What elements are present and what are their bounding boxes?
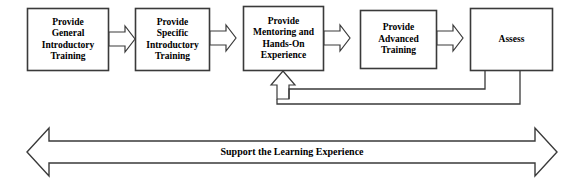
node-label-line: Training <box>155 51 190 63</box>
node-label-line: Provide <box>268 16 300 28</box>
node-label-line: Experience <box>261 50 306 62</box>
process-flow-diagram: Provide General Introductory Training Pr… <box>0 0 584 191</box>
node-label-line: Training <box>381 45 416 57</box>
arrow-advanced-to-assess-icon <box>437 25 463 51</box>
node-label-line: Specific <box>157 28 189 40</box>
feedback-advanced-to-mentoring-line <box>289 70 485 99</box>
support-banner-label: Support the Learning Experience <box>0 146 584 157</box>
node-label-line: Provide <box>157 17 189 29</box>
node-label-line: Provide <box>383 22 415 34</box>
arrow-specific-to-mentoring-icon <box>210 25 236 51</box>
node-label-line: Mentoring and <box>253 27 314 39</box>
node-label-line: Provide <box>52 17 84 29</box>
node-label-line: Training <box>50 51 85 63</box>
node-label-line: General <box>52 28 85 40</box>
node-label-line: Hands-On <box>262 39 304 51</box>
arrow-general-to-specific-icon <box>109 26 135 52</box>
node-label-mentoring-hands-on-experience: Provide Mentoring and Hands-On Experienc… <box>243 6 324 71</box>
feedback-up-arrow-icon <box>271 71 295 99</box>
node-label-specific-introductory-training: Provide Specific Introductory Training <box>135 8 210 71</box>
feedback-assess-to-mentoring-line <box>277 70 520 104</box>
node-label-line: Advanced <box>378 34 419 46</box>
node-label-advanced-training: Provide Advanced Training <box>360 10 437 69</box>
node-label-assess: Assess <box>470 8 553 71</box>
node-label-line: Introductory <box>42 40 95 52</box>
node-label-line: Introductory <box>146 40 199 52</box>
arrow-mentoring-to-advanced-icon <box>324 25 350 51</box>
node-label-line: Assess <box>499 34 525 46</box>
node-label-general-introductory-training: Provide General Introductory Training <box>27 8 109 71</box>
